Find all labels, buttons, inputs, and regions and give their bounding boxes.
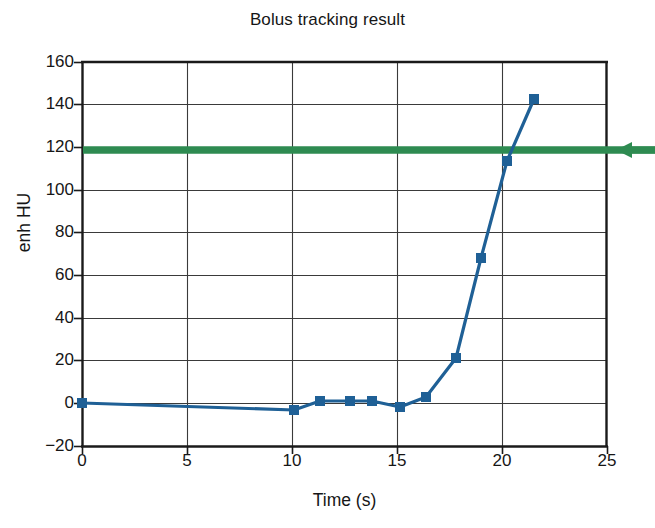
data-point [289, 405, 299, 415]
data-point [395, 402, 405, 412]
data-series-line [82, 99, 534, 410]
axis-spines [81, 61, 608, 447]
y-axis-ticks [74, 63, 82, 447]
data-point [529, 94, 539, 104]
data-point [345, 396, 355, 406]
plot-area [0, 0, 655, 528]
data-point-markers [77, 94, 539, 415]
data-point [367, 396, 377, 406]
data-point [451, 353, 461, 363]
data-point [502, 156, 512, 166]
chart-container: Bolus tracking result enh HU Time (s) 16… [0, 0, 655, 528]
vertical-gridlines [188, 62, 503, 446]
data-point [77, 398, 87, 408]
threshold-arrow-icon [616, 142, 655, 158]
data-point [476, 253, 486, 263]
data-point [421, 392, 431, 402]
data-point [315, 396, 325, 406]
